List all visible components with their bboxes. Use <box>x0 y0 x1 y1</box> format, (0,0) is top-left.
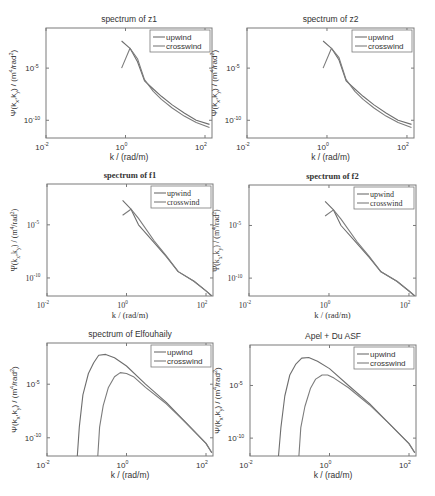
x-axis-label: k / (rad/m) <box>111 470 150 480</box>
x-tick-label: 10-2 <box>239 459 253 470</box>
x-tick-label: 10-2 <box>36 459 50 470</box>
legend-label-upwind: upwind <box>167 348 192 357</box>
x-axis-label: k / (rad/m) <box>110 152 149 162</box>
chart-title: spectrum of f2 <box>306 171 358 181</box>
legend: upwindcrosswind <box>151 345 211 367</box>
legend-label-crosswind: crosswind <box>370 199 402 208</box>
x-tick-label: 10-2 <box>239 299 252 310</box>
x-axis-label: k / (rad/m) <box>112 310 149 320</box>
x-axis-label: k / (rad/m) <box>311 152 350 162</box>
x-tick-label: 100 <box>320 299 331 310</box>
legend-label-crosswind: crosswind <box>368 42 404 51</box>
chart-title: Apel + Du ASF <box>305 331 361 341</box>
subplot-apel_du: 10-210010210-510-10Apel + Du ASFk / (rad… <box>212 331 417 480</box>
y-tick-label: 10-5 <box>27 219 40 230</box>
x-tick-label: 102 <box>399 459 411 470</box>
subplot-f2: 10-210010210-510-10spectrum of f2k / (ra… <box>211 171 417 320</box>
legend: upwindcrosswind <box>354 187 414 209</box>
y-tick-label: 10-5 <box>229 380 243 391</box>
legend-label-upwind: upwind <box>167 189 191 198</box>
x-tick-label: 100 <box>320 459 332 470</box>
legend: upwindcrosswind <box>352 30 412 52</box>
x-tick-label: 102 <box>195 141 207 152</box>
y-tick-label: 10-10 <box>225 115 242 126</box>
x-tick-label: 10-2 <box>35 141 49 152</box>
legend-label-crosswind: crosswind <box>167 357 203 366</box>
x-axis-label: k / (rad/m) <box>314 310 351 320</box>
y-tick-label: 10-5 <box>229 220 242 231</box>
legend-label-upwind: upwind <box>368 33 393 42</box>
subplot-elfouhaily: 10-210010210-510-10spectrum of Elfouhail… <box>9 329 214 480</box>
x-tick-label: 102 <box>400 299 411 310</box>
y-tick-label: 10-5 <box>226 63 240 74</box>
x-tick-label: 102 <box>397 141 409 152</box>
y-tick-label: 10-5 <box>25 63 39 74</box>
y-tick-label: 10-5 <box>26 379 40 390</box>
subplot-z2: 10-210010210-510-10spectrum of z2k / (ra… <box>209 14 415 162</box>
figure-canvas: 10-210010210-510-10spectrum of z1k / (ra… <box>0 0 435 496</box>
subplot-z1: 10-210010210-510-10spectrum of z1k / (ra… <box>8 14 213 162</box>
x-tick-label: 100 <box>116 141 128 152</box>
x-tick-label: 10-2 <box>236 141 250 152</box>
legend: upwindcrosswind <box>354 347 414 369</box>
x-tick-label: 100 <box>117 459 129 470</box>
legend: upwindcrosswind <box>151 186 211 208</box>
chart-title: spectrum of Elfouhaily <box>88 329 172 339</box>
y-axis-label: Ψ(kx,ky) / (m4/rad2) <box>9 208 21 271</box>
y-axis-label: Ψ(kx,ky) / (m4/rad2) <box>212 367 224 434</box>
y-axis-label: Ψ(kx,ky) / (m4/rad2) <box>211 209 223 272</box>
y-tick-label: 10-10 <box>25 432 42 443</box>
legend-label-upwind: upwind <box>370 350 395 359</box>
y-axis-label: Ψ(kx,ky) / (m4/rad2) <box>209 49 221 116</box>
legend-label-crosswind: crosswind <box>166 42 202 51</box>
x-tick-label: 102 <box>197 299 208 310</box>
chart-title: spectrum of z2 <box>303 14 359 24</box>
y-tick-label: 10-10 <box>228 273 243 284</box>
y-axis-label: Ψ(kx,ky) / (m4/rad2) <box>9 366 21 433</box>
legend-label-upwind: upwind <box>166 33 191 42</box>
x-axis-label: k / (rad/m) <box>314 470 353 480</box>
x-tick-label: 100 <box>117 299 128 310</box>
y-tick-label: 10-10 <box>24 115 41 126</box>
y-tick-label: 10-10 <box>228 433 245 444</box>
chart-title: spectrum of z1 <box>101 14 157 24</box>
chart-title: spectrum of f1 <box>104 170 156 180</box>
y-tick-label: 10-10 <box>26 272 41 283</box>
x-tick-label: 100 <box>317 141 329 152</box>
y-axis-label: Ψ(kx,ky) / (m4/rad2) <box>8 49 20 116</box>
x-tick-label: 102 <box>196 459 208 470</box>
subplot-f1: 10-210010210-510-10spectrum of f1k / (ra… <box>9 170 214 320</box>
legend: upwindcrosswind <box>150 30 210 52</box>
legend-label-crosswind: crosswind <box>167 198 199 207</box>
x-tick-label: 10-2 <box>37 299 50 310</box>
legend-label-upwind: upwind <box>370 190 394 199</box>
legend-label-crosswind: crosswind <box>370 359 406 368</box>
